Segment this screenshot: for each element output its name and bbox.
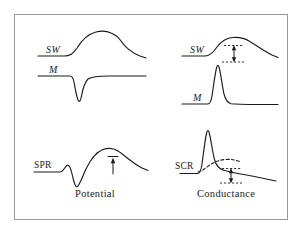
curve-bottom-right-scr <box>180 131 276 181</box>
curve-label-bottom-right-scr: SCR <box>175 161 194 171</box>
figure-plot-area <box>0 0 304 234</box>
curve-label-top-right-sw: SW <box>190 44 204 55</box>
curve-label-bottom-left-spr: SPR <box>34 160 52 170</box>
curve-label-top-left-sw: SW <box>46 44 60 55</box>
annot-top-right-arrowhead-down <box>232 57 236 62</box>
column-title-potential: Potential <box>75 188 115 199</box>
curve-label-top-left-m: M <box>49 64 58 75</box>
figure-root: SW M SW M SPR SCR Potential Conductance <box>0 0 304 234</box>
annot-bottom-right-arrowhead-down <box>229 178 233 183</box>
curve-label-top-right-m: M <box>193 92 202 103</box>
panel-bottom-right <box>180 131 276 184</box>
annot-bottom-right-arrowhead-up <box>229 168 233 173</box>
curve-top-left-m <box>38 76 146 101</box>
annot-top-right-arrowhead-up <box>232 45 236 50</box>
column-title-conductance: Conductance <box>197 188 255 199</box>
annot-bottom-left-arrowhead-up <box>111 158 115 163</box>
curve-bottom-right-slow-dashed <box>198 159 241 172</box>
